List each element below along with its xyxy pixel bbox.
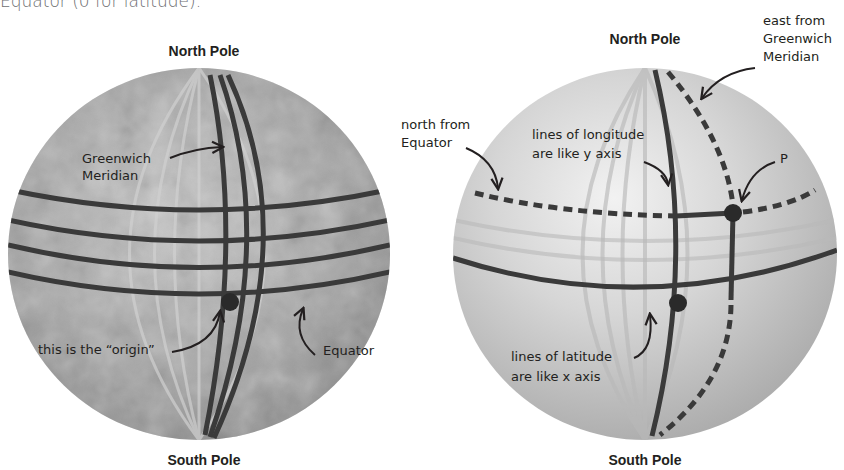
east-label-2: Greenwich bbox=[763, 31, 832, 46]
right-globe: North Pole South Pole east from Greenwic… bbox=[401, 13, 837, 468]
north-from-label-2: Equator bbox=[401, 135, 453, 150]
right-south-pole-label: South Pole bbox=[608, 452, 681, 468]
globes-diagram: North Pole South Pole Greenwich Meridian… bbox=[0, 0, 844, 470]
east-label-1: east from bbox=[763, 13, 825, 28]
north-from-label-1: north from bbox=[401, 117, 470, 132]
left-north-pole-label: North Pole bbox=[169, 43, 240, 59]
point-p-label: P bbox=[780, 151, 788, 166]
longitude-label-2: are like y axis bbox=[532, 146, 622, 161]
left-south-pole-label: South Pole bbox=[167, 452, 240, 468]
greenwich-label-2: Meridian bbox=[82, 168, 138, 183]
right-north-pole-label: North Pole bbox=[610, 31, 681, 47]
origin-point bbox=[669, 294, 687, 312]
left-globe: North Pole South Pole Greenwich Meridian… bbox=[8, 43, 390, 468]
east-label-3: Meridian bbox=[763, 49, 819, 64]
solid-meridian-segment bbox=[731, 213, 733, 300]
latitude-label-2: are like x axis bbox=[511, 369, 601, 384]
point-p bbox=[724, 204, 742, 222]
latitude-label-1: lines of latitude bbox=[511, 349, 612, 364]
origin-label: this is the “origin” bbox=[38, 342, 155, 357]
longitude-label-1: lines of longitude bbox=[532, 127, 644, 142]
origin-point bbox=[221, 293, 239, 311]
equator-label: Equator bbox=[323, 343, 375, 358]
greenwich-label-1: Greenwich bbox=[82, 151, 151, 166]
